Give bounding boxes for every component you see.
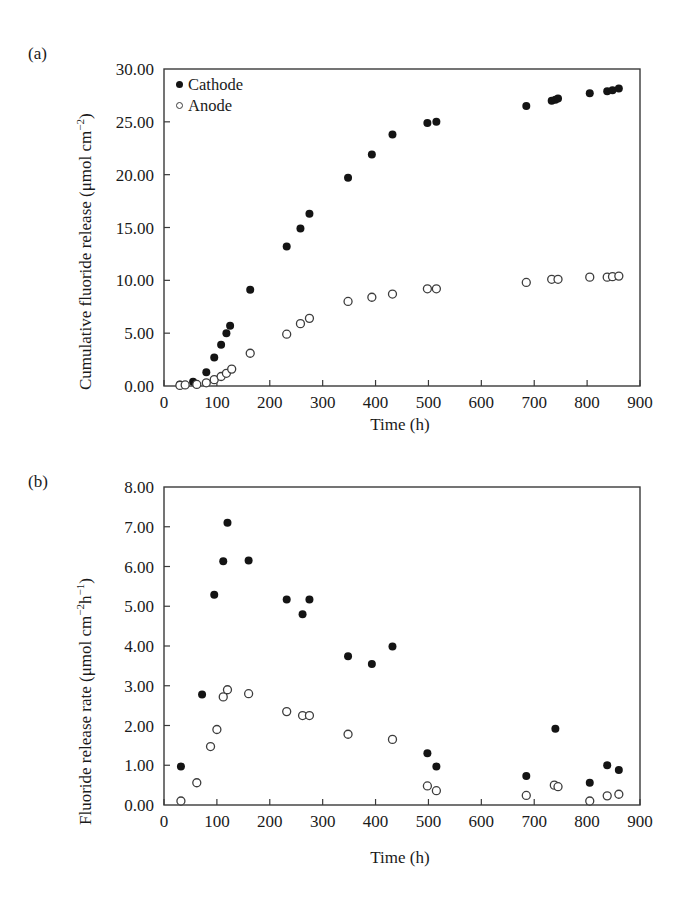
x-tick-label: 200 <box>257 393 283 412</box>
data-point <box>283 708 291 716</box>
x-tick-label: 0 <box>160 812 169 831</box>
data-point <box>551 725 559 733</box>
data-point <box>586 273 594 281</box>
data-point <box>522 102 530 110</box>
data-point <box>615 272 623 280</box>
data-point <box>423 749 431 757</box>
data-point <box>344 174 352 182</box>
series-anode <box>176 272 623 389</box>
data-point <box>423 285 431 293</box>
data-point <box>223 519 231 527</box>
data-point <box>586 89 594 97</box>
data-point <box>603 761 611 769</box>
legend-label-cathode: Cathode <box>188 74 243 95</box>
x-tick-label: 800 <box>574 393 600 412</box>
series-anode <box>177 686 623 805</box>
panel-a-plot: 01002003004005006007008009000.005.0010.0… <box>0 0 689 450</box>
x-tick-label: 300 <box>310 393 336 412</box>
panel-b: (b) Fluoride release rate (μmol cm−2h−1)… <box>0 450 689 900</box>
data-point <box>432 762 440 770</box>
data-point <box>305 314 313 322</box>
y-tick-label: 1.00 <box>124 756 154 775</box>
data-point <box>223 686 231 694</box>
data-point <box>245 557 253 565</box>
data-point <box>213 725 221 733</box>
data-point <box>522 772 530 780</box>
series-cathode <box>177 519 623 787</box>
data-point <box>423 119 431 127</box>
data-point <box>226 322 234 330</box>
data-point <box>586 779 594 787</box>
data-point <box>368 151 376 159</box>
data-point <box>615 766 623 774</box>
data-point <box>283 243 291 251</box>
series-cathode <box>176 85 623 389</box>
y-tick-label: 30.00 <box>116 60 154 79</box>
data-point <box>368 660 376 668</box>
data-point <box>603 792 611 800</box>
panel-a: (a) Cumulative fluoride release (μmol cm… <box>0 0 689 450</box>
y-tick-label: 2.00 <box>124 717 154 736</box>
data-point <box>210 353 218 361</box>
x-tick-label: 700 <box>521 812 547 831</box>
data-point <box>177 797 185 805</box>
data-point <box>246 349 254 357</box>
data-point <box>228 365 236 373</box>
data-point <box>388 642 396 650</box>
y-tick-label: 10.00 <box>116 271 154 290</box>
x-tick-label: 600 <box>469 812 495 831</box>
y-tick-label: 20.00 <box>116 166 154 185</box>
x-tick-label: 600 <box>469 393 495 412</box>
y-tick-label: 8.00 <box>124 478 154 497</box>
x-tick-label: 100 <box>204 812 230 831</box>
data-point <box>344 730 352 738</box>
data-point <box>554 783 562 791</box>
data-point <box>305 595 313 603</box>
x-tick-label: 900 <box>627 812 653 831</box>
data-point <box>432 118 440 126</box>
legend-entry-cathode: Cathode <box>176 74 243 95</box>
x-tick-label: 500 <box>416 812 442 831</box>
data-point <box>615 790 623 798</box>
x-tick-label: 700 <box>521 393 547 412</box>
filled-circle-icon <box>176 81 183 88</box>
data-point <box>296 225 304 233</box>
legend-entry-anode: Anode <box>176 95 243 116</box>
legend-label-anode: Anode <box>188 95 232 116</box>
x-tick-label: 900 <box>627 393 653 412</box>
x-tick-label: 400 <box>363 812 389 831</box>
data-point <box>554 275 562 283</box>
y-tick-label: 5.00 <box>124 597 154 616</box>
data-point <box>299 610 307 618</box>
data-point <box>305 712 313 720</box>
data-point <box>388 290 396 298</box>
data-point <box>554 95 562 103</box>
y-tick-label: 5.00 <box>124 324 154 343</box>
x-tick-label: 0 <box>160 393 169 412</box>
data-point <box>202 379 210 387</box>
data-point <box>423 782 431 790</box>
figure-root: (a) Cumulative fluoride release (μmol cm… <box>0 0 689 900</box>
x-tick-label: 400 <box>363 393 389 412</box>
data-point <box>207 743 215 751</box>
data-point <box>522 791 530 799</box>
y-tick-label: 7.00 <box>124 518 154 537</box>
y-tick-label: 3.00 <box>124 677 154 696</box>
y-tick-label: 15.00 <box>116 219 154 238</box>
data-point <box>217 341 225 349</box>
y-tick-label: 25.00 <box>116 113 154 132</box>
data-point <box>388 131 396 139</box>
data-point <box>193 779 201 787</box>
data-point <box>368 293 376 301</box>
y-tick-label: 4.00 <box>124 637 154 656</box>
data-point <box>615 85 623 93</box>
data-point <box>344 297 352 305</box>
data-point <box>177 762 185 770</box>
data-point <box>586 797 594 805</box>
x-tick-label: 500 <box>416 393 442 412</box>
data-point <box>432 787 440 795</box>
data-point <box>193 380 201 388</box>
data-point <box>181 381 189 389</box>
x-tick-label: 200 <box>257 812 283 831</box>
panel-b-plot: 01002003004005006007008009000.001.002.00… <box>0 450 689 900</box>
